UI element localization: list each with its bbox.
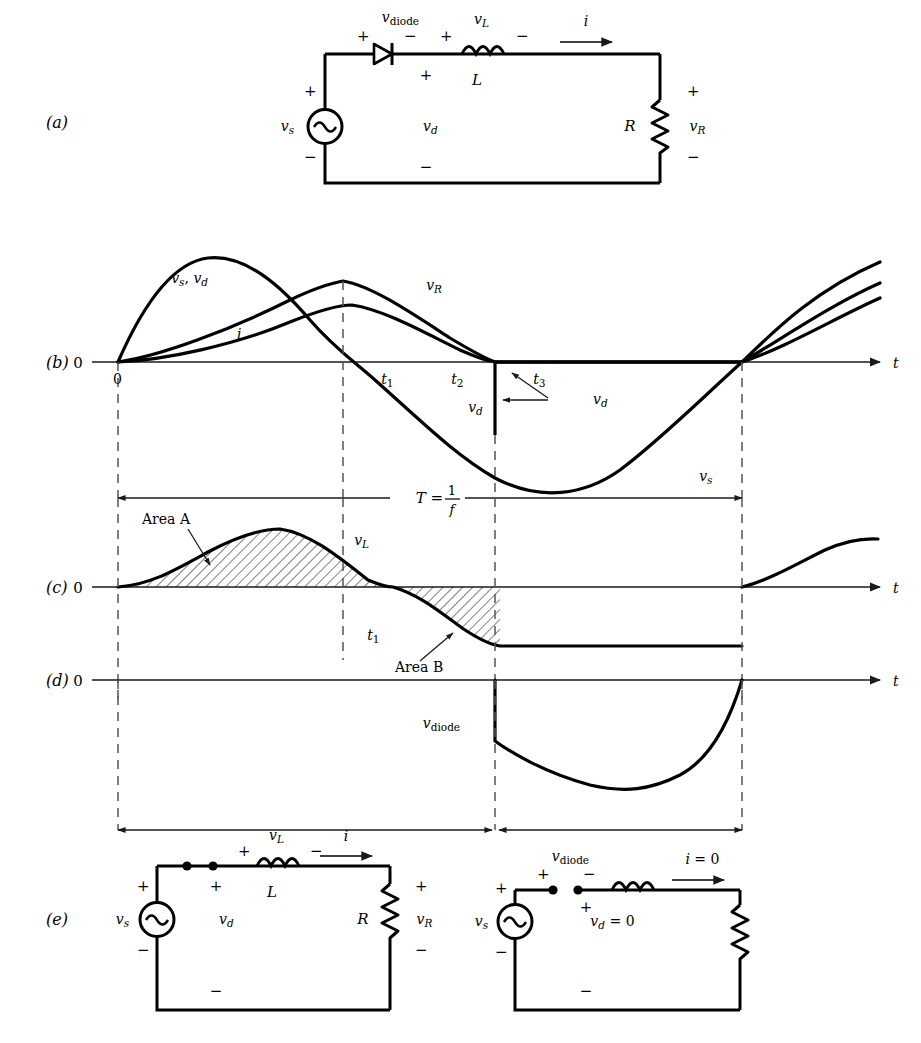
e-left-resistor-minus: − bbox=[415, 941, 428, 959]
e-right-vd-plus: + bbox=[580, 898, 593, 916]
label-vL-curve: vL bbox=[323, 532, 391, 551]
e-right-source-plus: + bbox=[495, 879, 508, 897]
curve-vs bbox=[118, 258, 880, 493]
vd-plus-sign: + bbox=[420, 66, 433, 84]
label-vs-vd: vs, vd bbox=[140, 270, 230, 289]
e-left-inductor-plus: + bbox=[238, 842, 251, 860]
label-vs-curve: vs bbox=[668, 468, 735, 487]
label-i-curve: i bbox=[237, 326, 241, 342]
plot-d-zero-label: 0 bbox=[73, 672, 83, 690]
time-mark-t3: t3 bbox=[502, 371, 568, 390]
plot-b: 0 t vs, vd vR i vd vs bbox=[73, 258, 899, 517]
period-dimension: T = 1 f bbox=[118, 483, 742, 517]
diode-open-symbol bbox=[548, 885, 582, 894]
vd-minus-sign: − bbox=[420, 158, 433, 176]
e-left-source-plus: + bbox=[137, 877, 150, 895]
resistor-minus-sign: − bbox=[687, 148, 700, 166]
svg-text:Area B: Area B bbox=[394, 659, 443, 675]
panel-label-b: (b) bbox=[46, 353, 69, 372]
source-minus-sign: − bbox=[304, 148, 317, 166]
inductor-plus-sign: + bbox=[440, 27, 453, 45]
area-B-callout: Area B bbox=[394, 633, 453, 675]
e-left-source-minus: − bbox=[137, 941, 150, 959]
label-vd-curve: vd bbox=[437, 399, 505, 418]
panel-label-c: (c) bbox=[46, 578, 67, 597]
e-right-source-minus: − bbox=[495, 943, 508, 961]
vd-label: vd bbox=[392, 118, 460, 137]
circuit-diagram-a: vdiode + − vL + − L i vs + − vd + − R vR… bbox=[250, 9, 728, 183]
plot-c-axis-label-t: t bbox=[893, 580, 899, 596]
curve-i bbox=[118, 298, 880, 362]
diode-plus-sign: + bbox=[357, 27, 370, 45]
svg-text:Area A: Area A bbox=[141, 511, 191, 527]
time-mark-t1-c: t1 bbox=[336, 627, 402, 646]
curve-vL-next-period bbox=[742, 539, 878, 587]
panel-label-d: (d) bbox=[46, 671, 69, 690]
diode-minus-sign: − bbox=[404, 27, 417, 45]
plot-d: 0 t vdiode bbox=[73, 672, 899, 830]
vR-label: vR bbox=[658, 118, 727, 137]
curve-vR bbox=[118, 281, 880, 362]
figure-root: (a) (b) (c) (d) (e) vdi bbox=[0, 0, 921, 1043]
panel-label-a: (a) bbox=[46, 113, 68, 132]
circuit-diagram-e-left: vL + − L i vs + − vd + − R vR + − bbox=[85, 827, 455, 1010]
curve-vdiode bbox=[495, 680, 742, 789]
inductor-L-label: L bbox=[471, 71, 482, 89]
diode-symbol bbox=[374, 43, 392, 65]
resistor-R-label-e-left: R bbox=[356, 910, 368, 928]
period-label: T = bbox=[373, 489, 481, 507]
svg-text:1: 1 bbox=[448, 483, 456, 498]
current-label-i: i bbox=[584, 13, 588, 29]
plot-c: 0 t vL Area A Area B t1 bbox=[73, 498, 899, 700]
source-label-vs: vs bbox=[250, 118, 317, 137]
e-right-diode-plus: + bbox=[537, 865, 550, 883]
e-right-vd-minus: − bbox=[580, 982, 593, 1000]
e-left-resistor-plus: + bbox=[415, 877, 428, 895]
inductor-minus-sign: − bbox=[516, 27, 529, 45]
circuit-diagram-e-right: vdiode + − i = 0 vs + − vd = 0 + − bbox=[444, 848, 748, 1010]
e-left-vd-minus: − bbox=[210, 982, 223, 1000]
source-label-e-left: vs bbox=[85, 911, 152, 930]
e-left-vd-plus: + bbox=[210, 877, 223, 895]
vd-label-e-left: vd bbox=[188, 911, 256, 930]
time-mark-t2: t2 bbox=[420, 371, 486, 390]
svg-text:vd: vd bbox=[553, 391, 639, 410]
current-label-e-left: i bbox=[344, 828, 348, 844]
label-vR-curve: vR bbox=[395, 277, 464, 296]
vd-zero-label-e-right: vd = 0 bbox=[559, 913, 657, 931]
vL-label: vL bbox=[443, 11, 511, 30]
resistor-symbol-e-right bbox=[732, 905, 748, 973]
plot-b-axis-label-t: t bbox=[893, 355, 899, 371]
e-right-diode-minus: − bbox=[583, 865, 596, 883]
panel-label-e: (e) bbox=[46, 910, 68, 929]
source-plus-sign: + bbox=[304, 82, 317, 100]
plot-b-zero-label: 0 bbox=[73, 354, 83, 372]
time-mark-origin: 0 bbox=[113, 371, 122, 387]
resistor-R-label: R bbox=[623, 117, 635, 135]
label-vdiode-curve: vdiode bbox=[392, 715, 483, 734]
plot-d-axis-label-t: t bbox=[893, 673, 899, 689]
inductor-L-label-e-left: L bbox=[266, 883, 277, 901]
e-left-inductor-minus: − bbox=[310, 842, 323, 860]
plot-c-zero-label: 0 bbox=[73, 579, 83, 597]
vdiode-label-e-right: vdiode bbox=[521, 848, 612, 867]
vdiode-label: vdiode bbox=[351, 9, 442, 28]
resistor-plus-sign: + bbox=[687, 82, 700, 100]
current-label-e-right: i = 0 bbox=[654, 851, 741, 867]
